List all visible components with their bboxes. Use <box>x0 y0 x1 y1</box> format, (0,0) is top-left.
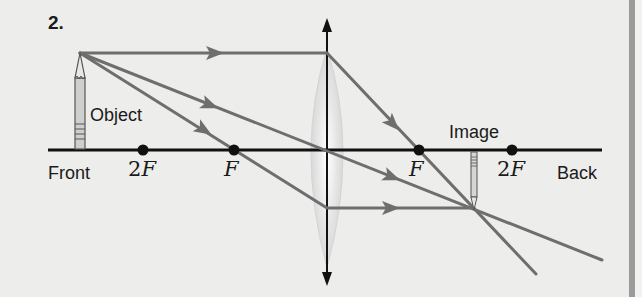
image-label: Image <box>449 122 499 143</box>
ray-center-refracted-arrow-icon <box>381 167 403 187</box>
two-f-back-label: 2F <box>497 157 525 181</box>
ray-diagram-canvas <box>0 0 642 297</box>
image-pencil-icon <box>471 152 477 210</box>
lens-top-arrow-icon <box>322 18 332 32</box>
front-label: Front <box>48 163 90 184</box>
focal-point-2f-back <box>507 145 518 156</box>
lens-diagram: 2. Object Image Front Back 2F F F 2F <box>0 0 642 297</box>
object-label: Object <box>90 105 142 126</box>
lens-bottom-arrow-icon <box>322 272 332 286</box>
f-back-label: F <box>409 157 424 181</box>
page-margin <box>635 0 642 297</box>
f-front-label: F <box>224 157 239 181</box>
focal-point-2f-front <box>138 145 149 156</box>
two-f-front-label: 2F <box>128 157 156 181</box>
object-pencil-icon <box>75 53 85 149</box>
focal-point-f-back <box>414 145 425 156</box>
back-label: Back <box>557 163 597 184</box>
ray-center-arrow-icon <box>199 95 221 115</box>
focal-point-f-front <box>229 145 240 156</box>
problem-number: 2. <box>48 12 64 34</box>
